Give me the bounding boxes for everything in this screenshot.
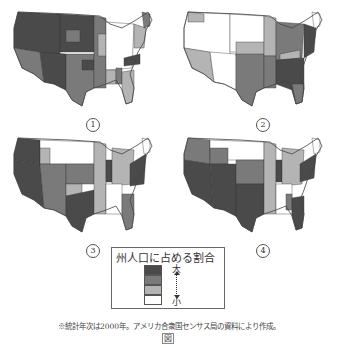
legend-swatch-dark	[144, 275, 162, 285]
map-label-4: 4	[256, 244, 270, 258]
map-1: 1	[10, 8, 160, 116]
legend-swatch-light	[144, 285, 162, 295]
legend-swatch-none	[144, 295, 162, 305]
source-note: ※統計年次は2000年。アメリカ合衆国センサス局の資料により作成。	[0, 320, 338, 331]
legend-low-label: 小	[172, 295, 181, 308]
legend-swatch-darkest	[144, 265, 162, 275]
legend-title: 州人口に占める割合	[116, 249, 215, 265]
figure-caption: 図	[162, 333, 174, 344]
map-label-1: 1	[86, 118, 100, 132]
us-choropleth-map-2	[180, 8, 330, 108]
us-choropleth-map-1	[10, 8, 160, 108]
legend: 州人口に占める割合 大 小	[111, 247, 225, 309]
us-choropleth-map-3	[10, 134, 160, 234]
map-label-3: 3	[86, 244, 100, 258]
map-4: 4	[180, 134, 330, 242]
map-label-2: 2	[256, 118, 270, 132]
map-3: 3	[10, 134, 160, 242]
map-2: 2	[180, 8, 330, 116]
us-choropleth-map-4	[180, 134, 330, 234]
legend-arrow-icon	[176, 274, 178, 296]
